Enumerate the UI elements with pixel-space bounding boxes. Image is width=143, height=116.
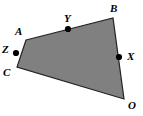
midpoint-label-x: X [127,51,134,62]
point-marker-x [116,54,122,60]
vertex-label-c: C [3,67,10,78]
geometry-figure: A B O C Y X Z [0,0,143,116]
vertex-label-a: A [15,26,22,37]
midpoint-label-z: Z [2,44,9,55]
point-marker-y [65,26,71,32]
point-marker-z [13,50,19,56]
geometry-canvas [0,0,143,116]
midpoint-label-y: Y [64,13,71,24]
vertex-label-o: O [128,100,136,111]
vertex-label-b: B [110,3,117,14]
